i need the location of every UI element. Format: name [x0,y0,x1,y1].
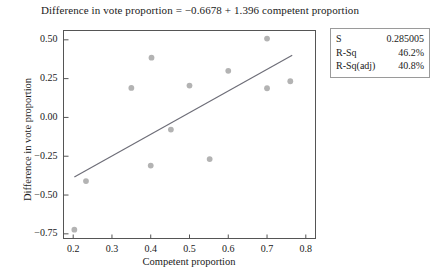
plot-frame [64,31,316,239]
data-point-0 [71,227,77,233]
data-point-5 [168,127,174,133]
x-tick-label: 0.6 [211,243,245,254]
data-point-2 [128,85,134,91]
x-tick-label: 0.8 [289,243,323,254]
stats-row-rsq: R-Sq 46.2% [336,46,424,60]
data-point-6 [187,83,193,89]
x-tick-label: 0.7 [250,243,284,254]
x-tick-label: 0.4 [134,243,168,254]
stats-value-rsq: 46.2% [398,46,424,60]
data-point-1 [83,178,89,184]
stats-row-s: S 0.285005 [336,32,424,46]
x-tick-label: 0.2 [56,243,90,254]
x-axis-title: Competent proportion [63,256,315,267]
stats-label-s: S [336,32,342,46]
data-point-10 [264,85,270,91]
regression-scatter-plot: Difference in vote proportion = −0.6678 … [0,0,441,279]
y-axis-title: Difference in vote proportion [22,45,33,235]
data-point-4 [148,163,154,169]
data-point-3 [149,55,155,61]
x-tick-label: 0.5 [173,243,207,254]
stats-value-s: 0.285005 [387,32,425,46]
stats-label-rsq: R-Sq [336,46,357,60]
stats-label-rsq-adj: R-Sq(adj) [336,59,375,73]
data-point-7 [207,156,213,162]
data-point-11 [287,78,293,84]
plot-frame-rect [64,31,316,239]
stats-row-rsq-adj: R-Sq(adj) 40.8% [336,59,424,73]
x-tick-label: 0.3 [95,243,129,254]
data-point-9 [264,36,270,42]
data-point-8 [225,68,231,74]
statistics-box: S 0.285005 R-Sq 46.2% R-Sq(adj) 40.8% [330,28,430,78]
y-tick-label: 0.50 [24,33,58,44]
stats-value-rsq-adj: 40.8% [398,59,424,73]
